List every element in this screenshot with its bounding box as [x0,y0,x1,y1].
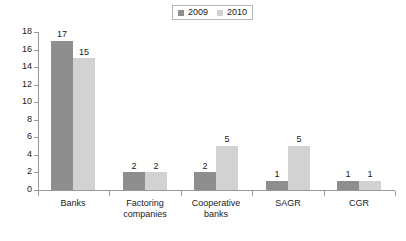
bar-cgr-2009[interactable] [337,181,359,190]
x-tick-mark-4 [324,191,325,196]
bar-value-cooperative-2010: 5 [212,134,242,144]
bar-value-sagr-2009: 1 [262,169,292,179]
legend-entry-2009[interactable]: 2009 [178,8,208,17]
bar-value-sagr-2010: 5 [284,134,314,144]
legend-swatch-2009 [178,10,184,16]
y-tick-label-6: 6 [0,131,38,142]
bar-value-cooperative-2009: 2 [190,161,220,171]
x-tick-mark-1 [109,191,110,196]
bar-banks-2010[interactable] [73,58,95,190]
bar-value-cgr-2010: 1 [355,169,385,179]
bar-chart: 2009 2010 18 16 14 12 10 8 6 4 2 0 17 15… [0,0,406,241]
legend-label-2010: 2010 [227,8,247,17]
chart-legend: 2009 2010 [172,5,253,20]
x-tick-mark-2 [181,191,182,196]
bar-sagr-2010[interactable] [288,146,310,190]
bar-value-factoring-2010: 2 [141,161,171,171]
bar-factoring-2009[interactable] [123,172,145,190]
bar-cgr-2010[interactable] [359,181,381,190]
x-axis-label-cgr-line1: CGR [316,198,402,209]
x-tick-mark-3 [252,191,253,196]
y-tick-mark-4 [34,155,39,156]
y-tick-label-16: 16 [0,44,38,55]
y-tick-mark-14 [34,67,39,68]
x-axis-label-cgr: CGR [316,198,402,209]
legend-label-2009: 2009 [188,8,208,17]
y-tick-mark-8 [34,120,39,121]
bar-cooperative-2009[interactable] [194,172,216,190]
y-tick-label-12: 12 [0,79,38,90]
bar-sagr-2009[interactable] [266,181,288,190]
y-tick-mark-2 [34,172,39,173]
bar-banks-2009[interactable] [51,41,73,190]
y-tick-label-18: 18 [0,26,38,37]
y-tick-label-0: 0 [0,184,38,195]
bar-value-banks-2010: 15 [69,47,99,57]
x-tick-mark-0 [38,191,39,196]
legend-swatch-2010 [217,10,223,16]
y-tick-mark-18 [34,32,39,33]
legend-entry-2010[interactable]: 2010 [217,8,247,17]
bar-factoring-2010[interactable] [145,172,167,190]
y-tick-mark-6 [34,137,39,138]
y-tick-label-14: 14 [0,61,38,72]
y-tick-mark-16 [34,50,39,51]
x-axis-line [38,190,395,191]
y-axis-line [38,32,39,190]
y-tick-label-2: 2 [0,166,38,177]
y-tick-mark-12 [34,85,39,86]
y-tick-label-4: 4 [0,149,38,160]
y-tick-label-10: 10 [0,96,38,107]
x-axis-label-cooperative-line2: banks [173,209,259,220]
bar-value-banks-2009: 17 [47,29,77,39]
y-tick-mark-10 [34,102,39,103]
x-tick-mark-5 [395,191,396,196]
y-tick-label-8: 8 [0,114,38,125]
